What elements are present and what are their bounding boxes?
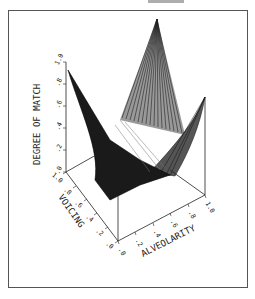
- svg-text:.8: .8: [54, 77, 65, 88]
- svg-text:1.0: 1.0: [53, 52, 65, 66]
- z-axis-tick-labels: 1.0 .8 .6 .4 .2 .0: [53, 52, 65, 175]
- svg-text:1.0: 1.0: [50, 171, 64, 185]
- y-axis-tick-labels: .0 .2 .4 .6 .8 1.0: [117, 200, 217, 257]
- svg-text:.8: .8: [187, 209, 198, 220]
- svg-text:.2: .2: [134, 237, 145, 248]
- svg-text:.2: .2: [54, 143, 65, 154]
- surface-sheet-back: [120, 19, 185, 135]
- surface-plot: 1.0 .8 .6 .4 .2 .0 DEGREE OF MATCH 1.0 .…: [0, 0, 255, 299]
- svg-text:1.0: 1.0: [204, 200, 217, 214]
- x-axis-label: VOICING: [56, 192, 86, 229]
- z-axis-ticks: [63, 62, 66, 172]
- svg-text:.4: .4: [54, 121, 65, 132]
- y-axis-ticks: [118, 195, 206, 244]
- svg-text:.6: .6: [54, 99, 65, 110]
- y-axis-label: ALVEOLARITY: [139, 223, 197, 259]
- svg-text:.0: .0: [117, 246, 128, 257]
- svg-text:.4: .4: [152, 228, 163, 239]
- svg-text:.0: .0: [104, 240, 115, 251]
- z-axis-label: DEGREE OF MATCH: [32, 84, 42, 165]
- svg-text:.2: .2: [94, 227, 105, 238]
- svg-text:.6: .6: [169, 218, 180, 229]
